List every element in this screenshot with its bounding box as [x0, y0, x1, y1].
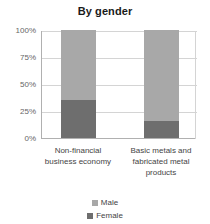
- x-axis-label-0: Non-financialbusiness economy: [37, 145, 119, 167]
- y-axis-tick-25pct: 25%: [2, 108, 36, 116]
- legend-label: Female: [96, 212, 123, 220]
- chart-legend: MaleFemale: [0, 196, 210, 222]
- bar-segment-male-0[interactable]: [61, 30, 96, 100]
- x-axis-label-line: business economy: [37, 156, 119, 167]
- y-axis-tick-0pct: 0%: [2, 135, 36, 143]
- bar-segment-female-0[interactable]: [61, 100, 96, 138]
- y-axis-tick-75pct: 75%: [2, 54, 36, 62]
- chart-title: By gender: [0, 5, 210, 17]
- gender-stacked-bar-chart: By gender 100%75%50%25%0% Non-financialb…: [0, 0, 210, 224]
- y-axis-tick-100pct: 100%: [2, 27, 36, 35]
- bar-segment-female-1[interactable]: [144, 121, 179, 138]
- x-axis-label-1: Basic metals andfabricated metalproducts: [118, 145, 204, 178]
- legend-item-female[interactable]: Female: [0, 209, 210, 222]
- x-axis-label-line: Basic metals and: [118, 145, 204, 156]
- x-axis-label-line: fabricated metal: [118, 156, 204, 167]
- x-axis-label-line: products: [118, 167, 204, 178]
- legend-swatch-icon-male: [92, 200, 98, 206]
- legend-swatch-icon-female: [87, 213, 93, 219]
- x-axis-label-line: Non-financial: [37, 145, 119, 156]
- bar-segment-male-1[interactable]: [144, 30, 179, 121]
- legend-label: Male: [101, 199, 118, 207]
- plot-area: [41, 31, 196, 139]
- legend-item-male[interactable]: Male: [0, 196, 210, 209]
- y-axis-tick-50pct: 50%: [2, 81, 36, 89]
